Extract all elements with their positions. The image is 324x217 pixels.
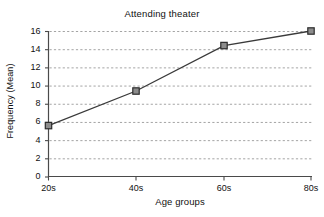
- gridlines-group: [50, 32, 313, 159]
- y-tick-label: 14: [21, 45, 41, 54]
- y-tick-label: 2: [21, 154, 41, 163]
- x-tick-label: 20s: [29, 184, 69, 193]
- x-tick-label: 60s: [204, 184, 244, 193]
- y-tick-label: 4: [21, 136, 41, 145]
- axes-group: [48, 31, 312, 177]
- x-tick-label: 80s: [291, 184, 324, 193]
- data-line-group: [49, 31, 312, 126]
- y-tick-label: 8: [21, 99, 41, 108]
- data-markers-group: [45, 28, 314, 129]
- y-tick-label: 10: [21, 81, 41, 90]
- x-tick-label: 40s: [116, 184, 156, 193]
- chart-figure: Attending theater Frequency (Mean) Age g…: [0, 0, 324, 217]
- x-tick-marks-group: [49, 177, 312, 181]
- y-tick-label: 6: [21, 117, 41, 126]
- y-tick-label: 16: [21, 27, 41, 36]
- y-tick-label: 12: [21, 63, 41, 72]
- data-point-marker: [221, 42, 227, 48]
- y-tick-label: 0: [21, 172, 41, 181]
- data-point-marker: [45, 122, 51, 128]
- data-point-marker: [133, 88, 139, 94]
- data-point-marker: [308, 28, 314, 34]
- data-series-line: [49, 31, 312, 126]
